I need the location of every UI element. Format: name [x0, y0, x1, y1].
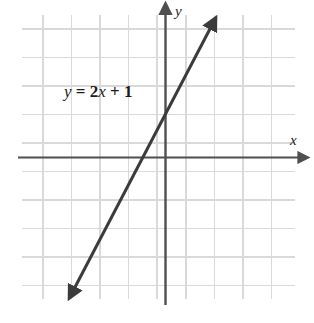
- equation-annotation: y = 2x + 1: [64, 83, 132, 100]
- coordinate-plane: [0, 0, 314, 323]
- equation-coefficient: 2: [90, 82, 99, 101]
- x-axis-label: x: [290, 133, 297, 148]
- equation-constant: 1: [124, 82, 133, 101]
- equation-lhs: y: [64, 82, 72, 101]
- y-axis-label: y: [175, 4, 182, 19]
- graph-figure: y x y = 2x + 1: [0, 0, 314, 323]
- equation-plus: +: [110, 82, 120, 101]
- equation-variable: x: [98, 82, 106, 101]
